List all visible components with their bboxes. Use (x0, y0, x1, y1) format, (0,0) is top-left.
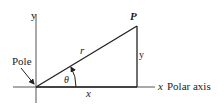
x-axis-label: x (157, 80, 163, 92)
polar-axis-label: Polar axis (167, 80, 211, 92)
pole-label: Pole (12, 55, 32, 67)
y-leg-label: y (139, 49, 144, 60)
angle-arc (71, 67, 76, 87)
radius-label: r (80, 44, 85, 56)
point-label: P (130, 10, 137, 22)
pole-arrow (21, 68, 34, 84)
radius-line (36, 26, 137, 87)
angle-label: θ (64, 74, 69, 85)
x-leg-label: x (85, 87, 91, 99)
y-axis-label: y (31, 9, 37, 21)
polar-diagram: y Pole P r θ x y x Polar axis (0, 0, 224, 105)
